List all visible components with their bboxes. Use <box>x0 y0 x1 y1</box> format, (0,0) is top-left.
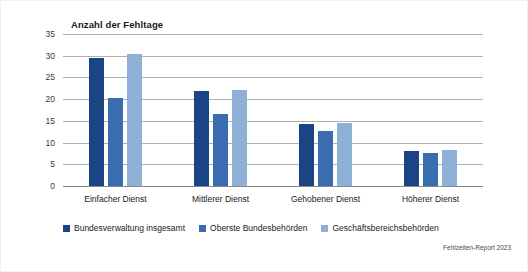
bar-group <box>404 34 457 186</box>
legend-swatch-icon <box>199 225 206 232</box>
x-axis-tick-label: Gehobener Dienst <box>291 194 360 204</box>
bar <box>337 123 352 186</box>
x-axis-tick-label: Höherer Dienst <box>402 194 459 204</box>
bar <box>232 90 247 186</box>
bar-group <box>89 34 142 186</box>
legend-label: Bundesverwaltung insgesamt <box>74 223 185 233</box>
legend-swatch-icon <box>321 225 328 232</box>
bar <box>423 153 438 186</box>
bar <box>108 98 123 186</box>
bar <box>442 150 457 186</box>
bar <box>299 124 314 186</box>
y-axis-tick-label: 0 <box>29 181 55 191</box>
legend-item[interactable]: Geschäftsbereichsbehörden <box>321 223 438 233</box>
y-axis-tick-label: 30 <box>29 51 55 61</box>
legend-item[interactable]: Bundesverwaltung insgesamt <box>63 223 185 233</box>
chart-figure: Anzahl der Fehltage 05101520253035 Einfa… <box>0 0 528 272</box>
y-axis-tick-label: 35 <box>29 29 55 39</box>
y-axis-tick-label: 20 <box>29 94 55 104</box>
bar <box>213 114 228 186</box>
legend-item[interactable]: Oberste Bundesbehörden <box>199 223 307 233</box>
bar <box>404 151 419 186</box>
bar-group <box>299 34 352 186</box>
source-note: Fehlzeiten-Report 2023 <box>443 244 511 251</box>
y-axis-tick-label: 5 <box>29 159 55 169</box>
gridline <box>63 186 483 187</box>
legend-label: Geschäftsbereichsbehörden <box>332 223 438 233</box>
y-axis-tick-label: 15 <box>29 116 55 126</box>
y-axis-tick-label: 10 <box>29 138 55 148</box>
bar <box>318 131 333 186</box>
x-axis-tick-label: Mittlerer Dienst <box>192 194 249 204</box>
x-axis-tick-label: Einfacher Dienst <box>84 194 146 204</box>
legend-swatch-icon <box>63 225 70 232</box>
chart-title: Anzahl der Fehltage <box>71 19 163 30</box>
chart-legend: Bundesverwaltung insgesamtOberste Bundes… <box>63 223 439 233</box>
legend-label: Oberste Bundesbehörden <box>210 223 307 233</box>
plot-area <box>63 34 483 186</box>
bars-layer <box>63 34 483 186</box>
bar <box>127 54 142 186</box>
bar <box>194 91 209 186</box>
y-axis-tick-label: 25 <box>29 72 55 82</box>
bar-group <box>194 34 247 186</box>
bar <box>89 58 104 186</box>
